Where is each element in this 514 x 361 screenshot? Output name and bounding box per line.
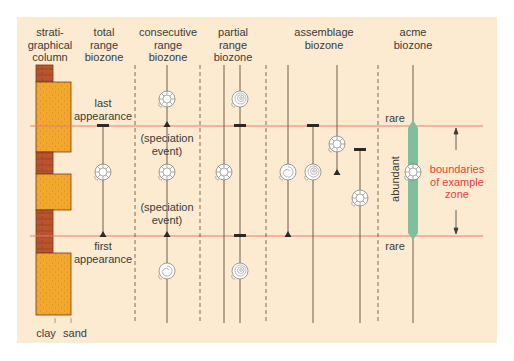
- acme-range: [405, 65, 421, 323]
- header-partial-range: partial range biozone: [206, 26, 260, 64]
- label-speciation-event-1: (speciation event): [136, 132, 198, 157]
- header-consecutive-range: consecutive range biozone: [135, 26, 201, 64]
- label-clay: clay: [36, 327, 56, 340]
- header-acme: acme biozone: [383, 26, 443, 51]
- header-total-range: total range biozone: [76, 26, 132, 64]
- label-rare-top: rare: [383, 112, 407, 125]
- label-boundaries: boundaries of example zone: [426, 163, 488, 201]
- label-first-appearance: first appearance: [72, 240, 134, 265]
- consecutive-range-range-line: [159, 65, 175, 323]
- label-sand: sand: [63, 327, 87, 340]
- label-rare-bottom: rare: [383, 240, 407, 253]
- header-assemblage: assemblage biozone: [290, 26, 358, 51]
- label-speciation-event-2: (speciation event): [136, 201, 198, 226]
- header-strat-column: strati- graphical column: [20, 26, 80, 64]
- label-last-appearance: last appearance: [72, 97, 134, 122]
- stratigraphic-column: [36, 65, 71, 323]
- total-range-range-line: [95, 124, 111, 237]
- assemblage-range-lines: [280, 65, 368, 323]
- label-abundant: abundant: [389, 154, 401, 204]
- partial-range-range-lines: [216, 65, 248, 323]
